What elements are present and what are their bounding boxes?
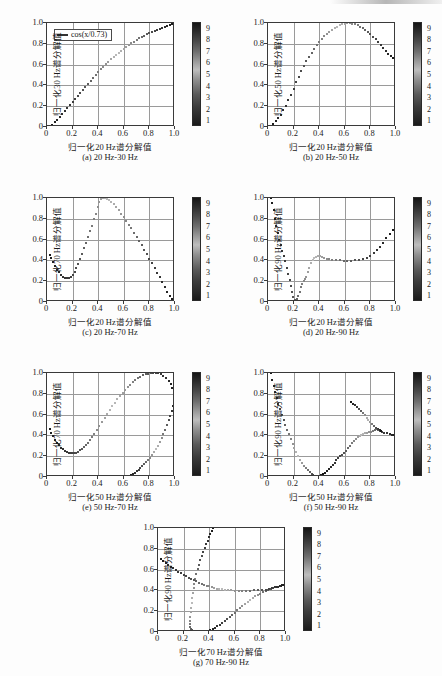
colorbar-tick-label: 9 [206, 375, 210, 383]
y-tick-mark [264, 126, 267, 127]
data-point [104, 417, 106, 419]
data-point [97, 71, 99, 73]
y-tick-mark [43, 259, 46, 260]
gridline-horizontal [47, 281, 173, 282]
data-point [353, 440, 355, 442]
panel-d-colorbar: 987654321 [413, 197, 422, 301]
y-tick-mark [43, 280, 46, 281]
x-tick-label: 0.2 [66, 479, 77, 488]
y-tick-mark [264, 301, 267, 302]
data-point [372, 36, 374, 38]
x-tick-mark [395, 126, 396, 129]
data-point [77, 263, 79, 265]
data-point [64, 110, 66, 112]
data-point [334, 462, 336, 464]
x-tick-mark [123, 476, 124, 479]
panel-b: 归一化50 Hz谱分解值 归一化20 Hz谱分解值 (b) 20 Hz-50 H… [221, 0, 442, 175]
data-point [87, 236, 89, 238]
gridline-vertical [319, 373, 320, 475]
data-point [286, 267, 288, 269]
y-tick-mark [154, 631, 157, 632]
y-tick-label: 0.6 [253, 59, 264, 68]
data-point [120, 213, 122, 215]
data-point [120, 50, 122, 52]
y-tick-mark [264, 22, 267, 23]
data-point [166, 291, 168, 293]
data-point [297, 295, 299, 297]
colorbar-tick-label: 1 [427, 117, 431, 125]
data-point [87, 83, 89, 85]
y-tick-mark [43, 84, 46, 85]
y-tick-label: 0.8 [32, 39, 43, 48]
colorbar-tick-label: 1 [206, 467, 210, 475]
data-point [298, 76, 300, 78]
x-tick-label: 0.6 [338, 479, 349, 488]
data-point [239, 607, 241, 609]
gridline-vertical [209, 528, 210, 630]
data-point [141, 465, 143, 467]
y-tick-mark [43, 414, 46, 415]
x-tick-mark [344, 476, 345, 479]
data-point [100, 68, 102, 70]
panel-c-xlabel: 归一化20 Hz谱分解值 [68, 315, 152, 327]
x-tick-label: 0.2 [177, 634, 188, 643]
x-tick-label: 1.0 [390, 129, 401, 138]
panel-c-colorbar: 987654321 [192, 197, 201, 301]
panel-a-legend: cos(x/0.73) [54, 29, 112, 41]
data-point [265, 589, 267, 591]
colorbar-tick-label: 3 [206, 94, 210, 102]
data-point [149, 457, 151, 459]
colorbar-tick-label: 2 [206, 281, 210, 289]
y-tick-mark [264, 43, 267, 44]
data-point [321, 38, 323, 40]
colorbar-tick-label: 6 [427, 409, 431, 417]
y-tick-label: 0.8 [32, 214, 43, 223]
data-point [170, 383, 172, 385]
data-point [284, 260, 286, 262]
colorbar-tick-label: 5 [427, 71, 431, 79]
x-tick-mark [369, 301, 370, 304]
colorbar-tick-label: 5 [206, 71, 210, 79]
data-point [272, 123, 274, 125]
y-tick-label: 0.2 [32, 101, 43, 110]
x-tick-mark [72, 301, 73, 304]
data-point [339, 455, 341, 457]
gridline-vertical [235, 528, 236, 630]
data-point [303, 65, 305, 67]
data-point [146, 253, 148, 255]
panel-c-caption: (c) 20 Hz-70 Hz [82, 327, 137, 337]
colorbar-tick-label: 4 [427, 433, 431, 441]
data-point [125, 220, 127, 222]
colorbar-tick-label: 1 [206, 292, 210, 300]
data-point [194, 630, 196, 631]
panel-g-axes [157, 527, 285, 631]
panel-f-xlabel: 归一化50 Hz谱分解值 [289, 490, 373, 502]
gridline-horizontal [47, 456, 173, 457]
data-point [227, 589, 229, 591]
data-point [389, 233, 391, 235]
gridline-vertical [345, 23, 346, 125]
x-tick-label: 0.8 [364, 304, 375, 313]
data-point [118, 209, 120, 211]
data-point [193, 583, 195, 585]
panel-g-plot: 归一化90 Hz谱分解值 归一化70 Hz谱分解值 (g) 70 Hz-90 H… [157, 527, 285, 631]
x-tick-mark [259, 631, 260, 634]
data-point [204, 547, 206, 549]
colorbar-tick-label: 2 [206, 106, 210, 114]
data-point [270, 197, 272, 199]
colorbar-tick-label: 6 [427, 234, 431, 242]
data-point [171, 298, 173, 300]
data-point [369, 255, 371, 257]
data-point [355, 438, 357, 440]
panel-f: 归一化90 Hz谱分解值 归一化50 Hz谱分解值 (f) 50 Hz-90 H… [221, 350, 442, 525]
x-tick-label: 0 [265, 129, 269, 138]
gridline-horizontal [158, 549, 284, 550]
x-tick-mark [97, 126, 98, 129]
data-point [244, 603, 246, 605]
y-tick-label: 0.2 [253, 276, 264, 285]
data-point [301, 283, 303, 285]
data-point [234, 612, 236, 614]
gridline-horizontal [47, 435, 173, 436]
colorbar-tick-label: 9 [317, 530, 321, 538]
gridline-vertical [294, 23, 295, 125]
